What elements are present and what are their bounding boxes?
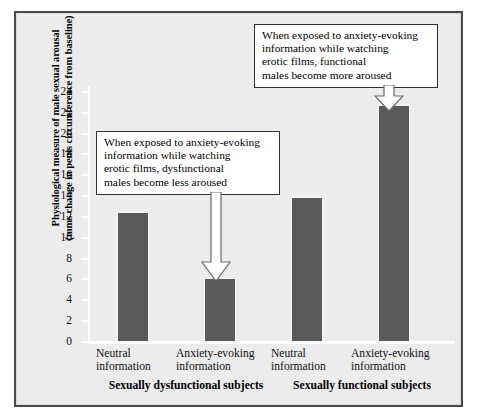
x-label-functional-anxiety: Anxiety-evoking information — [351, 347, 441, 374]
y-tick-2: 2 — [81, 320, 90, 322]
x-label-line2: information — [96, 360, 176, 373]
y-tick-18: 18 — [81, 153, 90, 155]
group-label-functional: Sexually functional subjects — [276, 379, 448, 392]
y-tick-label-22: 22 — [61, 106, 73, 118]
y-tick-12: 12 — [81, 216, 90, 218]
y-axis-line — [88, 86, 90, 342]
bar-functional-anxiety[interactable] — [379, 106, 409, 341]
y-tick-0: 0 — [81, 341, 90, 343]
y-tick-16: 16 — [81, 174, 90, 176]
y-tick-24: 24 — [81, 91, 90, 93]
y-tick-label-12: 12 — [61, 210, 73, 222]
x-label-line2: information — [351, 360, 441, 373]
chart-page: Physiological measure of male sexual aro… — [0, 0, 477, 419]
x-label-functional-neutral: Neutral information — [271, 347, 351, 374]
x-axis-baseline — [88, 341, 455, 344]
callout-functional-line2: information while watching — [262, 42, 430, 55]
callout-dysfunctional-arrow-wrap — [201, 192, 231, 283]
y-tick-8: 8 — [81, 258, 90, 260]
y-tick-4: 4 — [81, 299, 90, 301]
y-tick-label-8: 8 — [66, 252, 72, 264]
group-label-dysfunctional: Sexually dysfunctional subjects — [96, 379, 276, 392]
y-tick-label-0: 0 — [66, 335, 72, 347]
x-label-line2: information — [176, 360, 266, 373]
callout-dysfunctional: When exposed to anxiety-evoking informat… — [96, 131, 280, 195]
bar-dysfunctional-neutral[interactable] — [118, 213, 148, 341]
callout-dysfunctional-line2: information while watching — [104, 149, 272, 162]
y-tick-label-20: 20 — [61, 127, 73, 139]
bar-functional-neutral[interactable] — [292, 198, 322, 341]
x-label-dysfunctional-neutral: Neutral information — [96, 347, 176, 374]
x-label-line1: Neutral — [271, 347, 351, 360]
arrow-down-icon — [374, 85, 404, 113]
arrow-down-icon — [201, 192, 231, 283]
y-tick-14: 14 — [81, 195, 90, 197]
bar-dysfunctional-anxiety[interactable] — [205, 279, 235, 341]
callout-functional-line1: When exposed to anxiety-evoking — [262, 29, 430, 42]
y-tick-label-14: 14 — [61, 189, 73, 201]
x-label-line2: information — [271, 360, 351, 373]
callout-functional-arrow-wrap — [374, 85, 404, 113]
callout-functional: When exposed to anxiety-evoking informat… — [254, 24, 438, 88]
y-tick-label-16: 16 — [61, 168, 73, 180]
y-tick-10: 10 — [81, 237, 90, 239]
y-tick-label-10: 10 — [61, 231, 73, 243]
callout-functional-line4: males become more aroused — [262, 69, 430, 82]
x-label-line1: Neutral — [96, 347, 176, 360]
y-tick-label-2: 2 — [66, 314, 72, 326]
y-tick-label-4: 4 — [66, 293, 72, 305]
x-label-line1: Anxiety-evoking — [176, 347, 266, 360]
callout-functional-line3: erotic films, functional — [262, 55, 430, 68]
y-tick-6: 6 — [81, 278, 90, 280]
y-tick-label-24: 24 — [61, 85, 73, 97]
callout-dysfunctional-line3: erotic films, dysfunctional — [104, 162, 272, 175]
callout-dysfunctional-line1: When exposed to anxiety-evoking — [104, 136, 272, 149]
plot-area: 0 2 4 6 8 10 12 14 16 18 20 22 24 — [88, 86, 455, 344]
x-label-line1: Anxiety-evoking — [351, 347, 441, 360]
callout-dysfunctional-line4: males become less aroused — [104, 176, 272, 189]
y-tick-20: 20 — [81, 133, 90, 135]
x-label-dysfunctional-anxiety: Anxiety-evoking information — [176, 347, 266, 374]
y-tick-22: 22 — [81, 112, 90, 114]
y-tick-label-18: 18 — [61, 147, 73, 159]
y-tick-label-6: 6 — [66, 272, 72, 284]
